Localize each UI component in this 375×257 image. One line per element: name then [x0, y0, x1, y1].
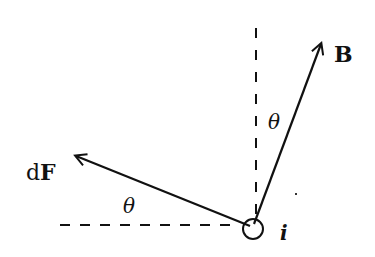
current-label: i: [280, 221, 288, 245]
force-label-f: F: [40, 159, 56, 185]
angle-theta-top: θ: [268, 110, 280, 134]
b-field-vector: [254, 44, 321, 224]
force-on-current-element-diagram: B d F θ θ i: [0, 0, 375, 257]
force-label-d: d: [26, 160, 40, 185]
stray-dot: [295, 193, 297, 195]
angle-theta-bottom: θ: [123, 194, 135, 218]
force-vector: [76, 156, 250, 226]
current-circle-icon: [243, 219, 263, 239]
b-field-label: B: [334, 41, 353, 67]
